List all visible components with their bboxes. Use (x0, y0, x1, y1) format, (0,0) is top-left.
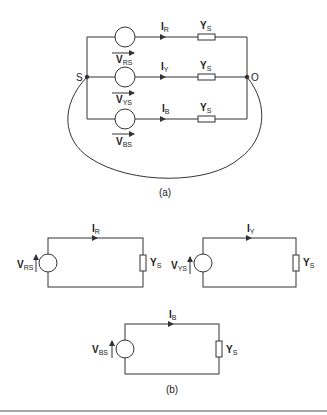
voltage-label-bs: VBS (116, 136, 132, 148)
node-o-dot (245, 75, 249, 79)
node-s-label: S (76, 72, 83, 83)
voltage-source-icon (116, 340, 134, 358)
admittance-label-y: YS (200, 60, 212, 72)
current-label-y-b: IY (247, 223, 255, 235)
figure-b (36, 235, 299, 374)
current-arrow-icon (246, 235, 252, 241)
admittance-label-b: YS (200, 102, 212, 114)
voltage-label-ys: VYS (116, 94, 132, 106)
current-label-r-b: IR (92, 223, 100, 235)
current-label-y: IY (161, 61, 169, 73)
admittance-label-b-b: YS (226, 344, 238, 356)
current-arrow-icon (160, 34, 166, 40)
current-arrow-icon (160, 116, 166, 122)
voltage-label-rs-b: VRS (17, 259, 34, 271)
current-label-b-b: IB (169, 309, 177, 321)
caption-a: (a) (159, 187, 171, 198)
admittance-icon (198, 34, 215, 40)
current-label-b: IB (162, 103, 170, 115)
admittance-label-y-b: YS (303, 257, 315, 269)
admittance-icon (216, 341, 222, 357)
voltage-label-ys-b: VYS (171, 260, 187, 272)
current-arrow-icon (160, 74, 166, 80)
voltage-label-rs: VRS (116, 54, 133, 66)
caption-b: (b) (166, 384, 178, 395)
voltage-source-icon (39, 254, 57, 272)
voltage-source-icon (115, 67, 135, 87)
admittance-icon (198, 116, 215, 122)
voltage-label-bs-b: VBS (92, 344, 108, 356)
figure-a (68, 27, 262, 178)
node-s-dot (85, 75, 89, 79)
current-arrow-icon (168, 321, 174, 327)
node-o-label: O (251, 72, 259, 83)
circuit-y (190, 235, 299, 287)
voltage-source-icon (115, 27, 135, 47)
admittance-label-r: YS (200, 20, 212, 32)
circuit-r (36, 235, 146, 287)
admittance-icon (293, 255, 299, 271)
voltage-source-icon (115, 109, 135, 129)
admittance-label-r-b: YS (150, 257, 162, 269)
circuit-diagram: S O IR YS VRS IY YS VYS IB YS VBS (a) (0, 0, 327, 415)
neutral-connection (68, 77, 262, 178)
current-label-r: IR (161, 21, 169, 33)
circuit-b (112, 321, 222, 374)
voltage-source-icon (194, 254, 212, 272)
current-arrow-icon (92, 235, 98, 241)
admittance-icon (198, 74, 215, 80)
admittance-icon (140, 255, 146, 271)
